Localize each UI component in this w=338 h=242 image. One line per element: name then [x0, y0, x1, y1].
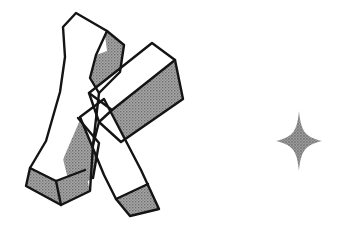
artboard	[0, 0, 338, 242]
logo-canvas: Black-outlined 3D letter K with gray sha…	[0, 0, 338, 242]
